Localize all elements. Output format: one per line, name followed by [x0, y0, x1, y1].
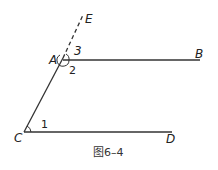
label-a: A: [48, 53, 57, 67]
label-b: B: [195, 47, 203, 61]
label-d: D: [166, 132, 175, 146]
angle-1-arc: [27, 126, 31, 132]
figure-caption: 图6–4: [93, 146, 124, 159]
label-c: C: [14, 131, 23, 145]
label-e: E: [85, 12, 93, 26]
angle-3-arc: [66, 54, 69, 60]
label-angle-1: 1: [41, 118, 48, 131]
label-angle-3: 3: [74, 44, 82, 58]
geometry-figure: E A B C D 3 2 1 图6–4: [0, 0, 218, 170]
label-angle-2: 2: [69, 64, 76, 77]
